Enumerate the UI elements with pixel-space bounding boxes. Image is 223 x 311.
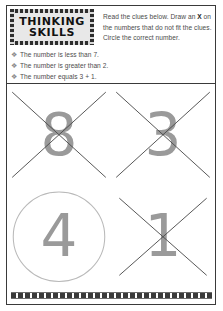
diamond-bullet-icon: ❖ (11, 71, 20, 82)
instructions-part-1: Read the clues below. Draw an (103, 13, 197, 20)
instructions-text: Read the clues below. Draw an X on the n… (103, 12, 215, 44)
badge-filmstrip-bottom (10, 41, 94, 45)
worksheet-header: THINKING SKILLS Read the clues below. Dr… (10, 9, 213, 47)
number-digit: 4 (41, 207, 78, 265)
clue-list: ❖ The number is less than 7. ❖ The numbe… (11, 49, 201, 82)
clue-item: ❖ The number is less than 7. (11, 49, 201, 60)
number-digit: 8 (41, 106, 78, 164)
badge-inner: THINKING SKILLS (14, 13, 90, 41)
clue-text: The number is less than 7. (20, 49, 99, 60)
number-cell-1[interactable]: 1 (111, 186, 215, 288)
clue-text: The number equals 3 + 1. (20, 71, 97, 82)
worksheet-page: THINKING SKILLS Read the clues below. Dr… (0, 0, 223, 311)
clue-text: The number is greater than 2. (20, 60, 108, 71)
bottom-filmstrip-decoration (11, 292, 212, 299)
badge-filmstrip-right (90, 9, 94, 45)
number-grid: 8 3 4 1 (7, 84, 215, 287)
thinking-skills-badge: THINKING SKILLS (10, 9, 94, 45)
clue-item: ❖ The number equals 3 + 1. (11, 71, 201, 82)
clue-item: ❖ The number is greater than 2. (11, 60, 201, 71)
badge-title-line-2: SKILLS (29, 27, 75, 38)
number-cell-3[interactable]: 3 (111, 84, 215, 186)
diamond-bullet-icon: ❖ (11, 60, 20, 71)
diamond-bullet-icon: ❖ (11, 49, 20, 60)
number-digit: 3 (145, 106, 182, 164)
number-cell-8[interactable]: 8 (7, 84, 111, 186)
number-cell-4[interactable]: 4 (7, 186, 111, 288)
number-digit: 1 (145, 207, 182, 265)
